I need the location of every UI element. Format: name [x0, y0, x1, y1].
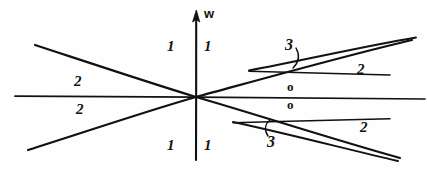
region-label-upper-o: o — [287, 80, 294, 93]
right-upper-ray — [196, 40, 412, 97]
region-label-upper-right-one: 1 — [204, 39, 212, 54]
wedge-label-lower-three: 3 — [267, 134, 275, 150]
wedge-label-upper-three: 3 — [285, 37, 293, 53]
upper-three-pointer — [293, 48, 298, 68]
upper-wedge-outer-ray — [249, 38, 416, 71]
region-label-left-upper-two: 2 — [74, 74, 82, 89]
horizontal-axis — [15, 96, 425, 99]
region-label-lower-o: o — [287, 98, 294, 111]
region-label-upper-left-one: 1 — [167, 39, 175, 54]
region-label-right-lower-two: 2 — [360, 120, 368, 135]
lower-wedge-outer-ray — [233, 122, 398, 161]
figure-canvas — [0, 0, 427, 169]
region-label-right-upper-two: 2 — [357, 62, 365, 77]
region-label-left-lower-two: 2 — [76, 102, 84, 117]
axis-label-w: w — [204, 7, 214, 20]
right-lower-ray — [196, 97, 400, 158]
upper-wedge-inner-ray — [249, 71, 390, 75]
region-label-lower-right-one: 1 — [204, 138, 212, 153]
hand-drawn-figure: w 1 1 1 1 2 2 2 2 3 3 o o — [0, 0, 427, 169]
region-label-lower-left-one: 1 — [167, 138, 175, 153]
